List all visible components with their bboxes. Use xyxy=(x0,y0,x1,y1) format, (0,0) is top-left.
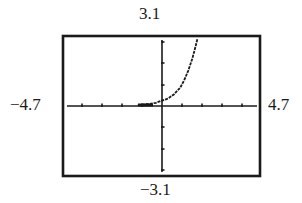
graph-window xyxy=(0,0,302,203)
axes xyxy=(67,40,257,172)
curve-line xyxy=(138,39,198,105)
function-curve xyxy=(138,39,198,105)
